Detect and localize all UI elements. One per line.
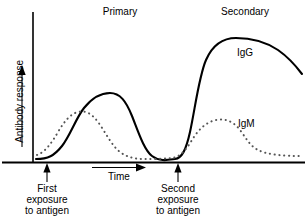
antibody-response-diagram: Primary Secondary IgG IgM Antibody respo… [0,0,307,224]
series-label-igm: IgM [238,119,255,130]
x-axis-title: Time [93,172,145,183]
first-exposure-caption: Firstexposureto antigen [8,184,86,216]
phase-label-secondary: Secondary [190,7,300,18]
y-axis-title: Antibody response [15,36,26,166]
second-exposure-caption: Secondexposureto antigen [139,184,217,216]
igg-curve [36,38,302,160]
first-exposure-arrow [43,163,50,182]
second-exposure-arrow [174,163,181,182]
phase-label-primary: Primary [70,7,170,18]
series-label-igg: IgG [237,48,253,59]
